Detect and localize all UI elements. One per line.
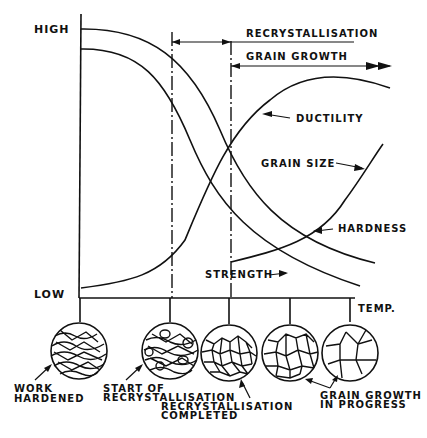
grain-growth-label: GRAIN GROWTH: [246, 51, 348, 62]
arrowhead-icon: [279, 270, 288, 277]
arrowhead-icon: [313, 227, 322, 234]
arrowhead-right-icon: [222, 39, 231, 45]
arrowhead-icon: [354, 164, 365, 171]
recrystallisation-label: RECRYSTALLISATION: [246, 28, 378, 39]
strength-label: STRENGTH: [205, 269, 273, 280]
label-work-hardened-2: HARDENED: [14, 393, 84, 404]
grain-size-label: GRAIN SIZE: [261, 158, 335, 169]
hardness-label: HARDNESS: [338, 223, 407, 234]
arrowhead-right-icon: [366, 62, 380, 70]
y-axis: [79, 14, 81, 298]
ductility-curve: [81, 77, 390, 288]
annealing-diagram: HIGH LOW TEMP. RECRYSTALLISATION GRAIN G…: [0, 0, 427, 438]
microstructure-grain-growth-2: [322, 325, 378, 381]
microstructure-start-recrystallisation: [142, 323, 198, 379]
label-recrystallisation-completed-2: COMPLETED: [161, 410, 238, 421]
y-low-label: LOW: [34, 288, 65, 301]
x-axis-label: TEMP.: [358, 303, 396, 314]
label-grain-growth-2: IN PROGRESS: [320, 399, 407, 410]
hardness-curve: [81, 29, 375, 263]
arrowhead-left-icon: [172, 39, 180, 45]
microstructure-grain-growth-1: [262, 325, 318, 381]
microstructure-recrystallisation-completed: [201, 325, 257, 381]
ductility-label: DUCTILITY: [296, 113, 363, 124]
y-high-label: HIGH: [34, 23, 70, 36]
microstructure-work-hardened: [51, 323, 107, 379]
arrowhead-right-icon: [378, 62, 392, 70]
arrowhead-left-icon: [231, 63, 240, 69]
arrowhead-icon: [262, 111, 272, 117]
arrowhead-icon: [305, 378, 313, 384]
